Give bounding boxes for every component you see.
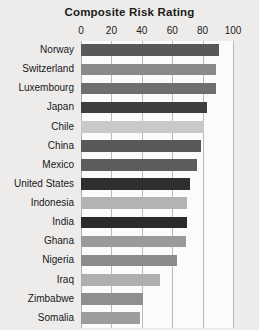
bar-row bbox=[81, 309, 233, 328]
x-tick-label-100: 100 bbox=[225, 25, 242, 36]
category-label: Indonesia bbox=[0, 194, 78, 213]
plot-area bbox=[81, 41, 233, 328]
bar-row bbox=[81, 251, 233, 270]
x-tick-label-60: 60 bbox=[167, 25, 178, 36]
bar-row bbox=[81, 156, 233, 175]
category-label: Norway bbox=[0, 41, 78, 60]
bar-row bbox=[81, 137, 233, 156]
category-label: United States bbox=[0, 175, 78, 194]
category-label: Chile bbox=[0, 118, 78, 137]
bar bbox=[81, 140, 201, 152]
x-axis-tick-labels: 020406080100 bbox=[0, 25, 259, 39]
bar bbox=[81, 102, 207, 114]
bar-row bbox=[81, 60, 233, 79]
category-label: India bbox=[0, 213, 78, 232]
chart-figure: Composite Risk Rating 020406080100 Norwa… bbox=[0, 0, 259, 330]
bar-row bbox=[81, 175, 233, 194]
bar bbox=[81, 159, 197, 171]
category-label: Mexico bbox=[0, 156, 78, 175]
bar-row bbox=[81, 118, 233, 137]
category-label: Switzerland bbox=[0, 60, 78, 79]
x-tick-label-80: 80 bbox=[197, 25, 208, 36]
bar-row bbox=[81, 232, 233, 251]
bar bbox=[81, 83, 216, 95]
bar bbox=[81, 236, 186, 248]
bar-row bbox=[81, 213, 233, 232]
bar bbox=[81, 64, 216, 76]
x-tick-label-0: 0 bbox=[78, 25, 84, 36]
bar-row bbox=[81, 41, 233, 60]
bar-row bbox=[81, 194, 233, 213]
bar bbox=[81, 274, 160, 286]
bar bbox=[81, 197, 187, 209]
category-label: Nigeria bbox=[0, 251, 78, 270]
category-label: Zimbabwe bbox=[0, 290, 78, 309]
category-label: Ghana bbox=[0, 232, 78, 251]
category-label: Iraq bbox=[0, 271, 78, 290]
bar bbox=[81, 217, 187, 229]
y-axis-category-labels: NorwaySwitzerlandLuxembourgJapanChileChi… bbox=[0, 41, 78, 328]
x-tick-label-40: 40 bbox=[136, 25, 147, 36]
bar bbox=[81, 293, 143, 305]
x-tick-label-20: 20 bbox=[106, 25, 117, 36]
category-label: Japan bbox=[0, 98, 78, 117]
gridline-100 bbox=[233, 41, 234, 328]
category-label: Somalia bbox=[0, 309, 78, 328]
bar bbox=[81, 178, 190, 190]
bar bbox=[81, 121, 204, 133]
bar-row bbox=[81, 79, 233, 98]
bar bbox=[81, 312, 140, 324]
bar bbox=[81, 255, 177, 267]
bar-row bbox=[81, 98, 233, 117]
category-label: China bbox=[0, 137, 78, 156]
chart-title: Composite Risk Rating bbox=[0, 6, 259, 18]
category-label: Luxembourg bbox=[0, 79, 78, 98]
bar-row bbox=[81, 290, 233, 309]
bar bbox=[81, 44, 219, 56]
bar-row bbox=[81, 271, 233, 290]
